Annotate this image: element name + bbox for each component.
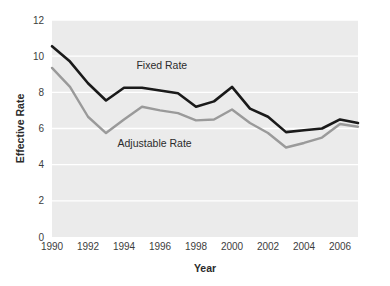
effective-rate-line-chart: 024681012 199019921994199619982000200220… (0, 0, 390, 286)
x-tick-label: 1996 (149, 241, 172, 252)
x-tick-label: 1992 (77, 241, 100, 252)
series-label-fixed-rate: Fixed Rate (136, 59, 187, 71)
y-tick-label: 8 (38, 87, 44, 98)
y-tick-label: 2 (38, 195, 44, 206)
x-tick-label: 2004 (293, 241, 316, 252)
y-axis-tick-labels: 024681012 (33, 15, 45, 243)
x-tick-label: 1990 (41, 241, 64, 252)
y-tick-label: 6 (38, 123, 44, 134)
x-tick-label: 2002 (257, 241, 280, 252)
y-tick-label: 4 (38, 159, 44, 170)
chart-canvas: 024681012 199019921994199619982000200220… (0, 0, 390, 286)
x-tick-label: 2006 (329, 241, 352, 252)
x-tick-label: 1994 (113, 241, 136, 252)
x-axis-title: Year (194, 262, 216, 274)
x-tick-label: 2000 (221, 241, 244, 252)
x-tick-label: 1998 (185, 241, 208, 252)
y-tick-label: 10 (33, 51, 45, 62)
x-axis-tick-labels: 199019921994199619982000200220042006 (41, 241, 352, 252)
y-axis-title: Effective Rate (14, 94, 26, 164)
series-label-adjustable-rate: Adjustable Rate (118, 137, 192, 149)
y-tick-label: 12 (33, 15, 45, 26)
